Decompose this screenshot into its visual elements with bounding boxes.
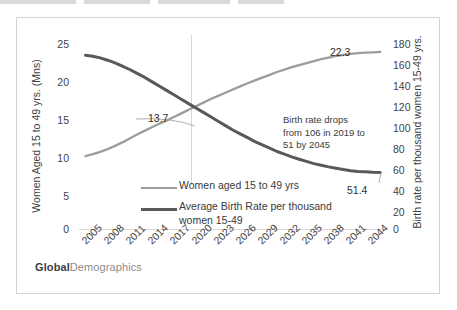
y-axis-left-tick: 10: [43, 152, 69, 164]
annotation-line: Birth rate drops: [283, 114, 387, 127]
y-axis-right-tick: 40: [393, 185, 419, 197]
y-axis-right-tick: 100: [393, 122, 419, 134]
data-label-13-7: 13.7: [148, 112, 168, 124]
y-axis-left-title: Women Aged 15 to 49 yrs. (Mns): [30, 41, 42, 231]
legend-item-women-aged-15-to-49[interactable]: Women aged 15 to 49 yrs: [139, 179, 349, 193]
brand-name-rest: Demographics: [70, 261, 142, 273]
y-axis-right-tick: 160: [393, 59, 419, 71]
y-axis-right-tick: 180: [393, 38, 419, 50]
brand-name-bold: Global: [35, 261, 70, 273]
legend-line-swatch-icon: [139, 204, 179, 214]
legend-line-swatch-icon: [139, 183, 179, 193]
data-label-22-3: 22.3: [330, 46, 350, 58]
annotation-line: 51 by 2045: [283, 139, 387, 152]
chart-figure: Women Aged 15 to 49 yrs. (Mns) Birth rat…: [16, 17, 440, 294]
y-axis-left-tick: 25: [43, 38, 69, 50]
data-label-51-4: 51.4: [347, 184, 367, 196]
annotation-line: from 106 in 2019 to: [283, 127, 387, 140]
y-axis-left-tick: 15: [43, 114, 69, 126]
y-axis-right-tick: 80: [393, 143, 419, 155]
top-edge-strip: [0, 0, 457, 9]
leader-line-51-4: [379, 173, 381, 183]
y-axis-right-tick: 140: [393, 80, 419, 92]
y-axis-left-tick: 5: [43, 190, 69, 202]
legend-label: Average Birth Rate per thousand women 15…: [179, 200, 349, 227]
chart-legend: Women aged 15 to 49 yrs Average Birth Ra…: [139, 179, 349, 234]
y-axis-left-tick: 0: [43, 223, 69, 235]
legend-label: Women aged 15 to 49 yrs: [179, 179, 299, 193]
y-axis-right-tick: 120: [393, 101, 419, 113]
brand-logo: GlobalDemographics: [35, 261, 142, 273]
y-axis-right-tick: 20: [393, 206, 419, 218]
y-axis-right-tick: 0: [393, 223, 419, 235]
y-axis-left-tick: 20: [43, 76, 69, 88]
legend-item-average-birth-rate[interactable]: Average Birth Rate per thousand women 15…: [139, 200, 349, 227]
annotation-birth-rate-drop: Birth rate drops from 106 in 2019 to 51 …: [283, 114, 387, 152]
y-axis-right-tick: 60: [393, 164, 419, 176]
